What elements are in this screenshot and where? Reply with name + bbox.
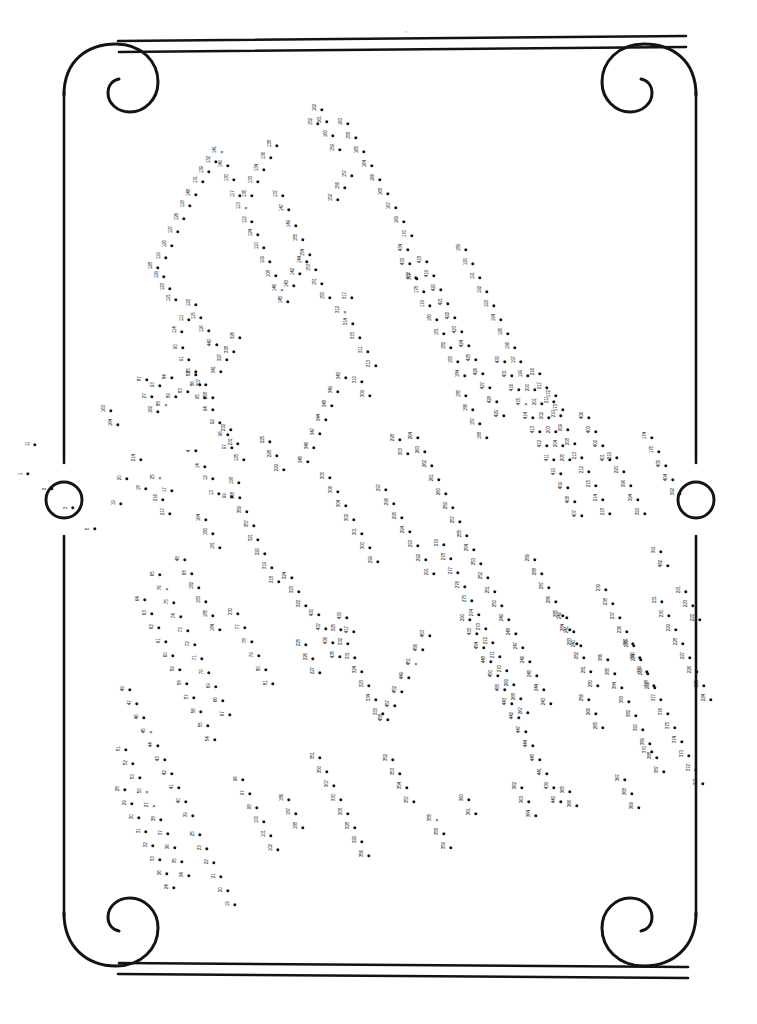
dot-number-label: 279 [435, 539, 440, 546]
dot-number-label: 178 [415, 286, 420, 293]
dot-number-label: 80 [257, 666, 262, 671]
dot-number-label: 48 [176, 556, 181, 561]
dot-marker [622, 470, 625, 473]
dot-number-label: 120 [163, 240, 168, 247]
dot-number-label: 431 [503, 370, 508, 377]
dot-number-label: 330 [229, 608, 234, 615]
dot-marker [238, 194, 241, 197]
dot-number-label: 224 [702, 694, 707, 701]
dot-number-label: 369 [630, 802, 635, 809]
dot-marker [170, 376, 173, 379]
dot-marker [478, 422, 481, 425]
dot-number-label: 288 [533, 568, 538, 575]
dot-number-label: 135 [243, 190, 248, 197]
dot-number-label: 20 [118, 475, 123, 480]
dot-number-label: 440 [552, 796, 557, 803]
dot-marker [680, 740, 683, 743]
dot-number-label: 406 [580, 412, 585, 419]
dot-marker [158, 384, 161, 387]
dot-marker [594, 484, 597, 487]
dot-marker [474, 812, 477, 815]
dot-marker [630, 792, 633, 795]
dot-number-label: 174 [643, 432, 648, 439]
dot-number-label: 219 [608, 452, 613, 459]
dot-marker [324, 627, 327, 630]
dot-number-label: 71 [193, 655, 198, 660]
dot-marker [150, 612, 153, 615]
dot-marker [400, 690, 403, 693]
dot-marker [360, 532, 363, 535]
dot-marker [346, 642, 349, 645]
dot-marker [527, 800, 530, 803]
dot-marker [416, 544, 419, 547]
dot-marker [339, 628, 342, 631]
dot-marker [172, 601, 175, 604]
dot-number-label: 360 [460, 794, 465, 801]
dot-marker [168, 512, 171, 515]
dot-number-label: 5 [86, 528, 91, 530]
dot-number-label: 367 [616, 774, 621, 781]
dot-marker [205, 847, 208, 850]
dot-number-label: 326 [231, 332, 236, 339]
dot-number-label: 116 [200, 325, 205, 332]
dot-marker [158, 573, 161, 576]
dot-number-label: 27 [143, 393, 148, 398]
dot-number-label: 351 [311, 752, 316, 759]
dot-number-label: 46 [135, 714, 140, 719]
dot-marker [362, 150, 365, 153]
dot-marker [164, 640, 167, 643]
dot-number-label: 228 [268, 450, 273, 457]
dot-number-label: 35 [173, 858, 178, 863]
dot-number-label: 393 [636, 508, 641, 515]
dot-marker [579, 644, 582, 647]
dot-marker [627, 700, 630, 703]
dot-number-label: 187 [471, 418, 476, 425]
dot-number-label: 277 [449, 567, 454, 574]
dot-number-label: 149 [287, 220, 292, 227]
dot-number-label: 387 [655, 766, 660, 773]
dot-number-label: 237 [611, 612, 616, 619]
dot-marker [463, 374, 466, 377]
dot-number-label: 249 [500, 614, 505, 621]
dot-number-label: 21 [212, 873, 217, 878]
dot-number-label: 287 [540, 582, 545, 589]
dot-marker [594, 430, 597, 433]
dot-number-label: 193 [485, 300, 490, 307]
dot-marker [176, 230, 179, 233]
dot-marker [320, 282, 323, 285]
dot-number-label: 169 [395, 216, 400, 223]
dot-number-label: 170 [403, 230, 408, 237]
dot-marker [275, 454, 278, 457]
dot-number-label: 56 [192, 708, 197, 713]
dot-number-label: 430 [310, 609, 315, 616]
dot-number-label: 430 [496, 356, 501, 363]
dot-number-label: 432 [407, 272, 412, 279]
dot-number-label: 252 [479, 572, 484, 579]
dot-marker [229, 428, 232, 431]
dot-marker [561, 408, 564, 411]
dot-number-label: 81 [264, 680, 269, 685]
dot-marker [287, 208, 290, 211]
dot-marker [533, 558, 536, 561]
dot-number-label: 439 [545, 782, 550, 789]
dot-marker [421, 648, 424, 651]
dot-number-label: 370 [643, 746, 648, 753]
dot-number-label: 165 [355, 146, 360, 153]
dot-marker [406, 452, 409, 455]
dot-number-label: 112 [243, 216, 248, 223]
dot-number-label: 12 [204, 475, 209, 480]
dot-number-label: 18 [137, 485, 142, 490]
dot-number-label: 180 [204, 528, 209, 535]
dot-number-label: 380 [631, 652, 636, 659]
dot-marker [566, 486, 569, 489]
dot-number-label: 183 [449, 356, 454, 363]
dot-marker [245, 510, 248, 513]
dot-number-label: 358 [231, 492, 236, 499]
dot-marker [568, 790, 571, 793]
dot-marker [596, 684, 599, 687]
dot-number-label: 441 [538, 768, 543, 775]
dot-number-label: 294 [401, 526, 406, 533]
dot-marker [274, 274, 277, 277]
dot-number-label: 63 [143, 610, 148, 615]
dot-marker [513, 346, 516, 349]
